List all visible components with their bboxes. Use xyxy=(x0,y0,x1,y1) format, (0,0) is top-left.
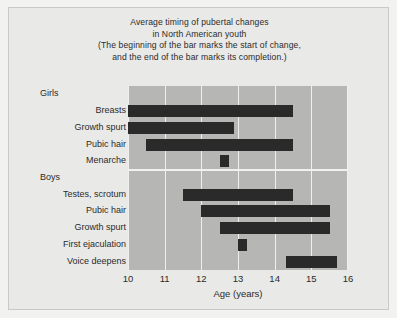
x-tick-label: 13 xyxy=(226,273,250,284)
row-label: Pubic hair xyxy=(14,205,126,215)
row-label: Breasts xyxy=(14,105,126,115)
range-bar xyxy=(128,122,234,134)
x-tick-label: 10 xyxy=(116,273,140,284)
event-marker xyxy=(220,155,229,167)
range-bar xyxy=(128,105,293,117)
range-bar xyxy=(146,139,293,151)
gridline-16 xyxy=(347,86,348,270)
row-label: Growth spurt xyxy=(14,222,126,232)
range-bar xyxy=(286,256,337,268)
row-label: Testes, scrotum xyxy=(14,189,126,199)
chart-title: Average timing of pubertal changes in No… xyxy=(9,17,390,63)
group-label-boys: Boys xyxy=(40,172,60,182)
x-tick-label: 15 xyxy=(299,273,323,284)
x-axis-ticks: 10111213141516 xyxy=(128,273,348,286)
title-line-2: in North American youth xyxy=(9,29,390,41)
event-marker xyxy=(238,239,247,251)
range-bar xyxy=(220,222,330,234)
range-bar xyxy=(201,205,329,217)
x-tick-label: 16 xyxy=(336,273,360,284)
title-line-3: (The beginning of the bar marks the star… xyxy=(9,40,390,52)
group-label-girls: Girls xyxy=(40,88,59,98)
row-label: Growth spurt xyxy=(14,122,126,132)
row-label: First ejaculation xyxy=(14,239,126,249)
row-label: Voice deepens xyxy=(14,256,126,266)
row-label: Menarche xyxy=(14,155,126,165)
title-line-1: Average timing of pubertal changes xyxy=(9,17,390,29)
row-labels-column: GirlsBreastsGrowth spurtPubic hairMenarc… xyxy=(12,86,126,270)
x-tick-label: 11 xyxy=(153,273,177,284)
range-bar xyxy=(183,189,293,201)
row-label: Pubic hair xyxy=(14,139,126,149)
figure-panel: Average timing of pubertal changes in No… xyxy=(8,7,389,310)
x-tick-label: 12 xyxy=(189,273,213,284)
title-line-4: and the end of the bar marks its complet… xyxy=(9,52,390,64)
x-tick-label: 14 xyxy=(263,273,287,284)
gridline-15 xyxy=(311,86,312,270)
x-axis-label: Age (years) xyxy=(128,288,348,299)
section-separator xyxy=(128,169,348,171)
plot-area xyxy=(128,86,348,270)
